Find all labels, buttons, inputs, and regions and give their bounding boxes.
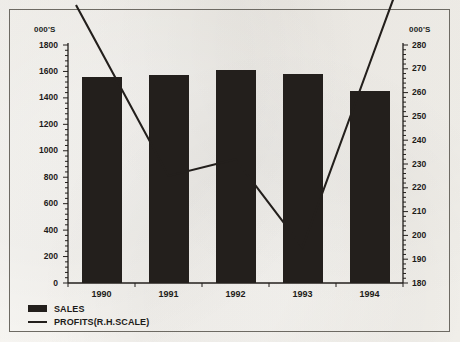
chart-page: 000'S 000'S 0200400600800100012001400160… <box>0 0 460 342</box>
legend-item-profits: PROFITS(R.H.SCALE) <box>28 315 149 328</box>
legend-profits-label: PROFITS(R.H.SCALE) <box>54 317 149 327</box>
legend-sales-label: SALES <box>54 304 85 314</box>
profits-line-series <box>0 0 460 342</box>
legend-item-sales: SALES <box>28 302 149 315</box>
legend-profits-line-icon <box>28 321 47 323</box>
legend-sales-swatch-icon <box>28 305 47 312</box>
chart-legend: SALES PROFITS(R.H.SCALE) <box>28 302 149 328</box>
profits-polyline <box>76 0 395 247</box>
